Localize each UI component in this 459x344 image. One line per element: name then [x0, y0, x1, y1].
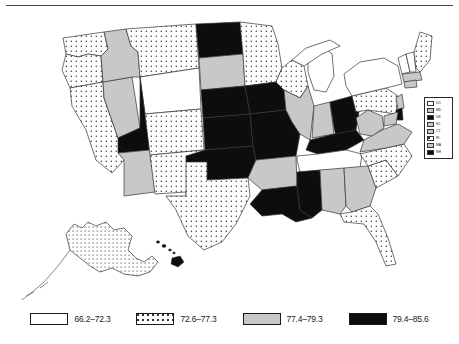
inset-swatch [427, 136, 434, 141]
state-IA [245, 82, 286, 114]
inset-swatch [427, 143, 434, 148]
inset-label: DE [436, 115, 441, 120]
map-legend: 66.2–72.3 72.6–77.3 77.4–79.3 79.4–85.6 [0, 305, 459, 333]
legend-item-class-3: 77.4–79.3 [243, 313, 323, 325]
legend-swatch-black [349, 313, 387, 325]
state-FL [340, 206, 396, 266]
legend-label: 66.2–72.3 [74, 314, 110, 324]
inset-label: MA [436, 143, 441, 148]
aleutian-chain [16, 250, 70, 300]
state-WA [63, 32, 108, 57]
inset-swatch [427, 129, 434, 134]
legend-item-class-2: 72.6–77.3 [136, 313, 216, 325]
inset-swatch [427, 108, 434, 113]
legend-label: 72.6–77.3 [180, 314, 216, 324]
state-SD [199, 54, 245, 90]
small-states-inset: DC MD DE NJ CT RI MA NH [424, 97, 453, 159]
inset-label: NJ [436, 122, 440, 127]
choropleth-map [0, 10, 459, 300]
inset-label: MD [436, 108, 441, 113]
inset-label: NH [436, 151, 441, 156]
state-AL [320, 168, 346, 214]
inset-row: DE [427, 114, 451, 120]
legend-swatch-white [30, 313, 68, 325]
inset-row: MA [427, 143, 451, 149]
inset-row: RI [427, 136, 451, 142]
inset-label: CT [436, 129, 441, 134]
state-AZ [118, 150, 155, 196]
state-AK [66, 222, 158, 276]
legend-label: 77.4–79.3 [287, 314, 323, 324]
state-ND [196, 22, 243, 58]
inset-row: MD [427, 107, 451, 113]
state-HI [156, 241, 184, 267]
state-ME [414, 32, 432, 72]
legend-item-class-1: 66.2–72.3 [30, 313, 110, 325]
legend-swatch-dotted [136, 313, 174, 325]
header-divider [6, 5, 453, 6]
inset-swatch [427, 150, 434, 155]
state-MD [384, 112, 398, 126]
inset-label: DC [436, 101, 441, 106]
legend-swatch-gray [243, 313, 281, 325]
state-MN [240, 22, 282, 86]
legend-label: 79.4–85.6 [393, 314, 429, 324]
inset-swatch [427, 122, 434, 127]
state-AR [248, 156, 297, 190]
state-NY [344, 58, 402, 96]
state-NE [201, 86, 250, 118]
inset-row: CT [427, 129, 451, 135]
legend-item-class-4: 79.4–85.6 [349, 313, 429, 325]
state-MS [297, 170, 322, 218]
inset-swatch [427, 115, 434, 120]
inset-row: NH [427, 150, 451, 156]
state-KS [203, 114, 253, 150]
inset-label: RI [436, 136, 439, 141]
state-CO [145, 109, 204, 155]
inset-swatch [427, 101, 434, 106]
inset-row: DC [427, 100, 451, 106]
inset-row: NJ [427, 121, 451, 127]
